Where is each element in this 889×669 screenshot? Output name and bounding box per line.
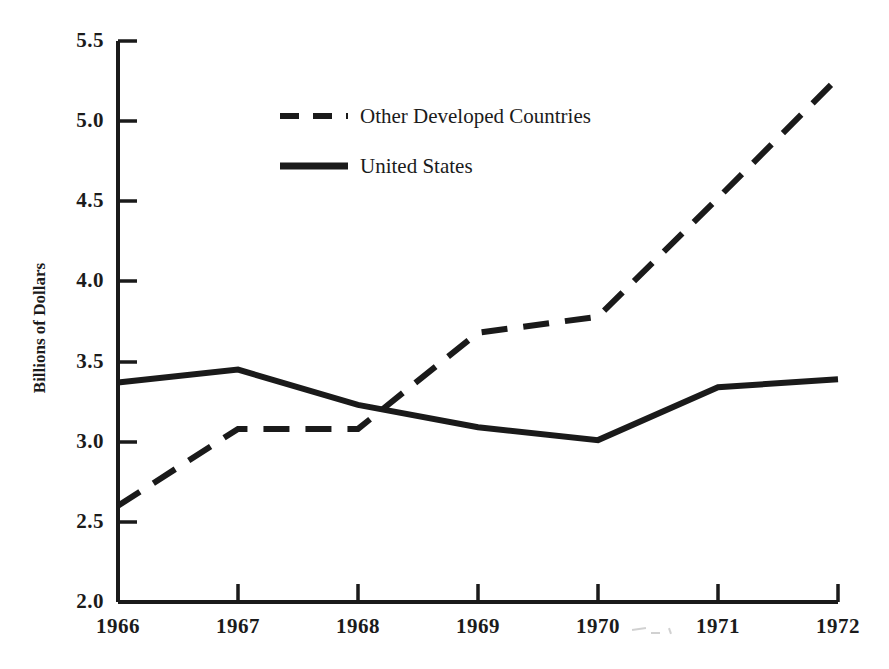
x-tick-marks: [238, 584, 838, 602]
series-line-other-developed-countries: [118, 78, 838, 506]
y-tick-label-2.5: 2.5: [44, 509, 104, 534]
legend-label-united-states: United States: [360, 154, 473, 179]
y-tick-marks: [118, 41, 137, 522]
x-tick-label-1971: 1971: [673, 614, 763, 639]
x-tick-label-1968: 1968: [313, 614, 403, 639]
x-tick-label-1972: 1972: [793, 614, 883, 639]
legend-label-other-developed-countries: Other Developed Countries: [360, 104, 591, 129]
x-tick-label-1969: 1969: [433, 614, 523, 639]
scan-artifact-2: [651, 632, 660, 634]
y-tick-label-3.5: 3.5: [44, 349, 104, 374]
y-tick-label-2.0: 2.0: [44, 589, 104, 614]
y-axis-title: Billions of Dollars: [30, 228, 50, 428]
y-tick-label-4.0: 4.0: [44, 268, 104, 293]
y-tick-label-4.5: 4.5: [44, 188, 104, 213]
y-tick-label-5.5: 5.5: [44, 28, 104, 53]
x-tick-label-1967: 1967: [193, 614, 283, 639]
y-tick-label-5.0: 5.0: [44, 108, 104, 133]
legend-swatches: [280, 116, 348, 166]
chart-figure: Billions of Dollars 5.5 5.0 4.5 4.0 3.5 …: [0, 0, 889, 669]
series-line-united-states: [118, 370, 838, 441]
x-tick-label-1966: 1966: [73, 614, 163, 639]
chart-canvas: [0, 0, 889, 669]
y-tick-label-3.0: 3.0: [44, 429, 104, 454]
x-tick-label-1970: 1970: [553, 614, 643, 639]
